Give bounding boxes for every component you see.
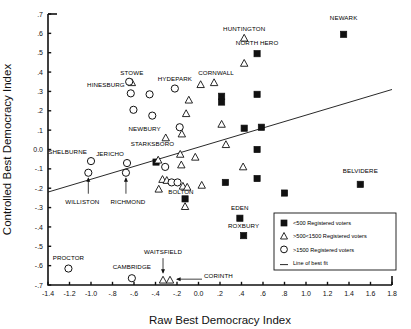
y-tick-label: -.6 (35, 262, 43, 269)
data-point-triangle (181, 203, 188, 210)
plot-canvas: .7.6.5.4.3.2.10.0-.1-.2-.3-.4-.5-.6-.7-1… (0, 0, 411, 329)
data-point-triangle (222, 141, 229, 148)
point-label: HINESBURG (87, 81, 125, 88)
y-tick-label: -.1 (35, 165, 43, 172)
x-tick-label: 1.6 (366, 290, 376, 297)
data-point-square (357, 181, 363, 187)
data-point-triangle (218, 120, 225, 127)
point-label: EDEN (231, 204, 249, 211)
point-label: WILLISTON (65, 198, 99, 205)
point-label: WAITSFIELD (144, 248, 182, 255)
data-point-square (182, 196, 188, 202)
data-point-triangle (155, 185, 162, 192)
data-point-square (222, 179, 228, 185)
x-tick-label: 0.0 (194, 290, 204, 297)
data-point-triangle (240, 59, 247, 66)
data-point-square (219, 93, 225, 99)
x-tick-label: -1.2 (63, 290, 75, 297)
data-point-triangle (182, 110, 189, 117)
y-tick-label: .5 (37, 49, 43, 56)
y-tick-label: .3 (37, 88, 43, 95)
x-tick-label: -.8 (108, 290, 116, 297)
data-point-circle (122, 169, 129, 176)
point-label: NEWBURY (128, 125, 160, 132)
y-tick-label: -.7 (35, 282, 43, 289)
y-tick-label: .7 (37, 11, 43, 18)
data-point-triangle (178, 161, 185, 168)
point-label: CORINTH (204, 272, 233, 279)
point-label: RICHMOND (111, 198, 146, 205)
data-point-circle (149, 112, 156, 119)
x-tick-label: 1.2 (323, 290, 333, 297)
data-point-square (254, 175, 260, 181)
x-tick-label: 1.0 (301, 290, 311, 297)
legend-entry-label: >1500 Registered voters (293, 247, 354, 253)
data-point-triangle (192, 153, 199, 160)
data-point-square (254, 146, 260, 152)
y-tick-label: -.5 (35, 243, 43, 250)
x-tick-label: -1.4 (42, 290, 54, 297)
x-tick-label: .6 (260, 290, 266, 297)
data-point-circle (176, 124, 183, 131)
data-point-square (254, 51, 260, 57)
data-point-circle (65, 265, 72, 272)
x-tick-label: 1.8 (387, 290, 397, 297)
data-point-circle (130, 106, 137, 113)
leader-arrowhead (161, 269, 165, 273)
x-tick-label: -1.0 (85, 290, 97, 297)
data-point-square (241, 233, 247, 239)
x-tick-label: .2 (217, 290, 223, 297)
data-point-square (219, 99, 225, 105)
point-label: SHELBURNE (48, 148, 87, 155)
data-point-triangle (159, 276, 166, 283)
legend-entry-label: Line of best fit (293, 260, 328, 266)
data-point-square (341, 31, 347, 37)
point-label: BELVIDERE (343, 167, 378, 174)
data-point-triangle (166, 276, 173, 283)
scatter-plot-figure: .7.6.5.4.3.2.10.0-.1-.2-.3-.4-.5-.6-.7-1… (0, 0, 411, 329)
data-point-square (258, 124, 264, 130)
x-tick-label: .8 (282, 290, 288, 297)
y-tick-label: -.3 (35, 204, 43, 211)
y-tick-label: -.2 (35, 185, 43, 192)
y-tick-label: -.4 (35, 224, 43, 231)
y-axis-title: Controlled Best Democracy Index (1, 64, 13, 236)
data-point-circle (128, 275, 135, 282)
data-point-square (237, 215, 243, 221)
data-point-circle (123, 159, 130, 166)
point-label: HYDEPARK (158, 75, 193, 82)
x-tick-label: -.2 (173, 290, 181, 297)
data-point-square (241, 125, 247, 131)
data-point-circle (174, 179, 181, 186)
data-point-circle (85, 169, 92, 176)
data-point-circle (162, 163, 169, 170)
data-point-triangle (239, 163, 246, 170)
y-tick-label: .6 (37, 30, 43, 37)
point-label: CAMBRIDGE (113, 263, 151, 270)
y-tick-label: .1 (37, 127, 43, 134)
data-point-triangle (185, 96, 192, 103)
point-label: STOWE (120, 69, 143, 76)
leader-arrowhead (124, 177, 128, 181)
data-point-triangle (210, 79, 217, 86)
legend-marker-square (281, 220, 287, 226)
x-tick-label: .4 (239, 290, 245, 297)
data-point-circle (171, 85, 178, 92)
legend-entry-label: <500 Registered voters (293, 220, 351, 226)
data-point-square (254, 91, 260, 97)
data-point-circle (87, 158, 94, 165)
x-tick-label: -.6 (130, 290, 138, 297)
leader-arrowhead (176, 277, 181, 281)
data-point-triangle (197, 81, 204, 88)
point-label: CORNWALL (198, 69, 234, 76)
point-label: JERICHO (96, 150, 124, 157)
x-axis-title: Raw Best Democracy Index (149, 314, 291, 326)
x-tick-label: 1.4 (344, 290, 354, 297)
data-point-circle (146, 91, 153, 98)
point-label: NEWARK (330, 14, 358, 21)
data-point-circle (127, 90, 134, 97)
legend-marker-circle (281, 246, 288, 253)
x-tick-label: -.4 (151, 290, 159, 297)
point-label: ROXBURY (228, 222, 259, 229)
data-point-circle (126, 78, 133, 85)
